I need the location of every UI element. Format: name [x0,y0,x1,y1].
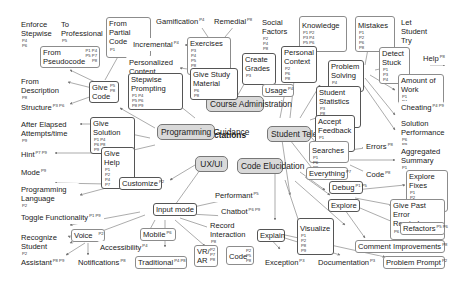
participant-tags: P1 P2 P4 P7 [105,167,116,187]
node-label: After Elapsed Attempts/time [21,120,75,138]
node-code-search[interactable]: CodeP8 [363,168,393,181]
node-visualize[interactable]: VisualizeP1 P2 P8 P9 [297,218,334,255]
node-label: Voice [74,231,93,240]
node-exception[interactable]: ExceptionP3 [262,256,314,269]
hub-label: Code Elucidation [241,161,304,171]
node-documentation[interactable]: DocumentationP3 [315,256,381,269]
node-input-mode[interactable]: Input mode [153,203,197,216]
node-label: Visualize [300,224,324,233]
node-customize[interactable]: CustomizeP2 [119,177,162,190]
node-label: Explore [331,201,357,210]
node-label: Give Code [92,83,109,101]
participant-tags: P6 P8 [194,88,199,98]
participant-tags: P4 P6 [22,38,29,48]
node-structure[interactable]: StructureP3 P6 [18,101,70,114]
participant-tags: P3 [299,258,304,263]
node-label: Detect Stuck [382,49,402,67]
node-label: Mobile [143,230,165,239]
node-traditional[interactable]: TraditionalP4 P8 [135,256,187,269]
node-label: Toggle Functionality [21,213,88,222]
node-label: Explore Fixes [409,172,436,190]
participant-tags: P3 [246,73,251,78]
participant-tags: P3 P6 [53,103,64,108]
node-label: Mistakes [358,21,388,30]
node-gamification[interactable]: GamificationP4 [153,15,208,28]
node-searches[interactable]: SearchesP1 P6 P8 [309,141,349,163]
node-programming-language[interactable]: Programming LanguageP2 [18,183,80,215]
node-from-pseudocode[interactable]: From PseudocodeP1 P4 P5 P7 P8 [40,46,100,68]
node-label: Accept Feedback [318,117,349,135]
node-refactors[interactable]: RefactorsP5 P6 [400,222,445,235]
participant-tags: P8 [442,242,447,247]
hub-ux-ui[interactable]: UX/UI [195,156,228,172]
node-label: Mode [21,168,40,177]
hub-label: UX/UI [200,159,222,169]
node-label: Solution Performance [401,119,441,137]
node-give-study-material[interactable]: Give Study MaterialP6 P8 [190,68,238,100]
node-hint[interactable]: HintP7 P9 [18,148,54,161]
node-to-professional[interactable]: To ProfessionalP5 [58,18,103,50]
participant-tags: P7 P9 [36,150,47,155]
node-chatbot[interactable]: ChatbotP6 P9 [218,205,262,218]
node-performant[interactable]: PerformantP5 [212,189,262,202]
participant-tags: P6 [166,230,171,235]
node-give-code[interactable]: Give CodeP5 P8 [89,81,119,103]
node-label: Help [423,54,439,63]
node-debug[interactable]: DebugP1 P5 [329,181,363,194]
participant-tags: P4 [142,243,147,248]
participant-tags: P2 P4 P8 [263,36,268,51]
node-remedial[interactable]: RemedialP8 [211,15,256,28]
node-label: Let Student Try [401,18,439,46]
participant-tags: P8 [385,170,390,175]
node-label: VR/ AR [197,247,209,265]
node-everything[interactable]: EverythingP7 [306,167,348,180]
node-label: Create Grades [245,55,270,73]
hub-label: Programming Guidance [161,127,249,137]
node-notifications[interactable]: NotificationsP8 [75,256,127,269]
hub-student-telemetry[interactable]: Student Telemetry [267,126,311,142]
node-label: Notifications [78,258,119,267]
node-personal-context[interactable]: Personal ContextP2 P6 P8 [281,46,317,83]
participant-tags: P2 [159,179,164,184]
participant-tags: P5 [254,191,259,196]
node-label: Input mode [156,205,194,214]
participant-tags: P2 [22,203,27,208]
node-help[interactable]: HelpP8 [420,52,448,65]
node-label: Gamification [156,17,198,26]
node-errors[interactable]: ErrorsP8 [363,140,393,153]
participant-tags: P4 P9 [432,103,443,108]
participant-tags: P4 P8 [174,258,185,263]
node-accessibility[interactable]: AccessibilityP4 [97,241,149,254]
hub-code-elucidation[interactable]: Code Elucidation [237,158,283,174]
node-comment-improvements[interactable]: Comment ImprovementsP8 [355,240,445,253]
node-after-elapsed[interactable]: After Elapsed Attempts/timeP9 [18,118,80,150]
node-label: Give Study Material [193,70,231,88]
node-label: Personal Context [284,48,310,66]
participant-tags: P1 P5 [355,183,366,188]
node-incremental[interactable]: IncrementalP4 [130,38,180,51]
node-code-explain[interactable]: CodeP2 P5 P8 [226,246,254,265]
node-mode[interactable]: ModeP9 [18,166,52,179]
participant-tags: P2 [442,258,447,263]
node-label: Enforce Stepwise [21,20,48,38]
node-label: Amount of Work [401,76,437,94]
node-vr-ar[interactable]: VR/ ARP2 P7 P8 [194,245,218,267]
node-label: Stepwise Prompting [131,75,169,93]
participant-tags: P8 [440,54,445,59]
node-toggle-functionality[interactable]: Toggle FunctionalityP1 P9 [18,211,104,224]
node-label: Hint [21,150,35,159]
node-explore[interactable]: Explore [328,199,360,212]
node-mobile[interactable]: MobileP6 [140,228,176,241]
participant-tags: P8 P9 [53,258,64,263]
participant-tags: P2 P7 P8 [210,247,215,262]
node-label: Explain [260,231,285,240]
node-assistant[interactable]: AssistantP8 P9 [18,256,64,269]
node-usage[interactable]: UsageP4 [262,84,294,97]
participant-tags: P8 [388,142,393,147]
node-cheating[interactable]: CheatingP4 P9 [398,101,444,114]
node-stepwise-prompting[interactable]: Stepwise PromptingP1 P4 P5 P6 P8 P9 [128,73,183,110]
hub-programming-guidance[interactable]: Programming Guidance [157,124,215,140]
node-problem-prompt[interactable]: Problem PromptP2 [383,256,445,269]
node-create-grades[interactable]: Create GradesP3 [242,53,276,85]
node-explain[interactable]: Explain [257,229,285,242]
